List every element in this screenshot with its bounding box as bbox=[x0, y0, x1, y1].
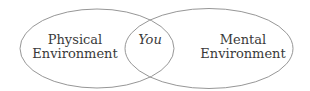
physical-environment-label: Physical Environment bbox=[30, 33, 120, 61]
physical-label-line1: Physical bbox=[30, 33, 120, 47]
mental-label-line1: Mental bbox=[198, 33, 288, 47]
mental-label-line2: Environment bbox=[198, 47, 288, 61]
mental-environment-label: Mental Environment bbox=[198, 33, 288, 61]
you-label: You bbox=[130, 33, 170, 47]
venn-diagram: Physical Environment You Mental Environm… bbox=[0, 0, 310, 91]
physical-label-line2: Environment bbox=[30, 47, 120, 61]
